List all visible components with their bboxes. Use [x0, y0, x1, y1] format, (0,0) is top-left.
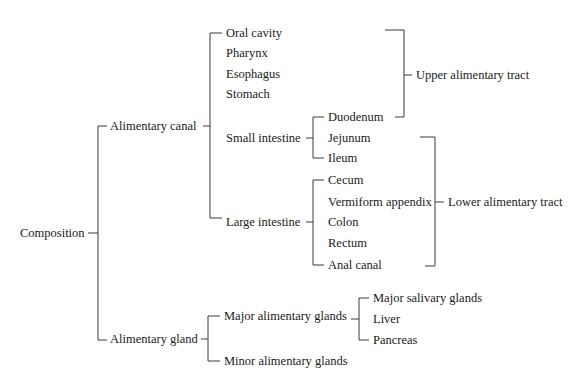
digestive-system-composition-diagram: Composition Alimentary canal Alimentary … [0, 0, 582, 387]
node-major-salivary-glands: Major salivary glands [373, 291, 482, 305]
node-cecum: Cecum [328, 173, 363, 187]
node-duodenum: Duodenum [328, 110, 384, 124]
node-pharynx: Pharynx [226, 46, 268, 60]
node-major-alimentary-glands: Major alimentary glands [224, 309, 347, 323]
node-pancreas: Pancreas [373, 333, 417, 347]
node-large-intestine: Large intestine [226, 215, 300, 229]
node-lower-alimentary-tract: Lower alimentary tract [448, 195, 563, 209]
node-vermiform-appendix: Vermiform appendix [328, 195, 432, 209]
bracket-lines [0, 0, 582, 387]
node-ileum: Ileum [328, 151, 357, 165]
node-minor-alimentary-glands: Minor alimentary glands [224, 354, 348, 368]
node-oral-cavity: Oral cavity [226, 26, 282, 40]
node-esophagus: Esophagus [226, 67, 280, 81]
node-rectum: Rectum [328, 236, 367, 250]
node-liver: Liver [373, 312, 400, 326]
node-small-intestine: Small intestine [226, 131, 301, 145]
root-composition: Composition [20, 226, 85, 240]
node-anal-canal: Anal canal [328, 258, 382, 272]
node-alimentary-canal: Alimentary canal [110, 119, 196, 133]
node-alimentary-gland: Alimentary gland [110, 332, 198, 346]
node-upper-alimentary-tract: Upper alimentary tract [416, 68, 529, 82]
node-jejunum: Jejunum [328, 131, 370, 145]
node-stomach: Stomach [226, 87, 270, 101]
node-colon: Colon [328, 215, 359, 229]
